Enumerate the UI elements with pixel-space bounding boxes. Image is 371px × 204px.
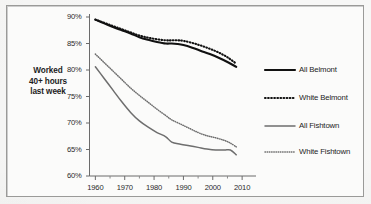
axis-lines: [90, 14, 257, 176]
chart-figure: Worked 40+ hours last week 60%65%70%75%8…: [0, 0, 371, 204]
y-tick-label-75: 75%: [56, 92, 82, 101]
legend-label-all-belmont: All Belmont: [299, 65, 337, 74]
legend-label-all-fishtown: All Fishtown: [299, 121, 339, 130]
legend-label-white-belmont: White Belmont: [299, 93, 348, 102]
legend-swatches: [265, 70, 295, 152]
x-tick-label-2000: 2000: [198, 183, 228, 192]
legend-label-white-fishtown: White Fishtown: [299, 147, 350, 156]
y-tick-label-65: 65%: [56, 145, 82, 154]
x-tick-label-2010: 2010: [227, 183, 257, 192]
tick-marks: [86, 17, 242, 180]
x-tick-label-1980: 1980: [139, 183, 169, 192]
x-tick-label-1970: 1970: [110, 183, 140, 192]
series-paths: [95, 20, 236, 155]
y-tick-label-70: 70%: [56, 118, 82, 127]
series-line-white-fishtown: [95, 54, 236, 147]
y-tick-label-60: 60%: [56, 171, 82, 180]
y-tick-label-80: 80%: [56, 65, 82, 74]
series-line-all-fishtown: [95, 67, 236, 155]
x-tick-label-1960: 1960: [80, 183, 110, 192]
y-tick-label-90: 90%: [56, 12, 82, 21]
y-tick-label-85: 85%: [56, 39, 82, 48]
x-tick-label-1990: 1990: [168, 183, 198, 192]
